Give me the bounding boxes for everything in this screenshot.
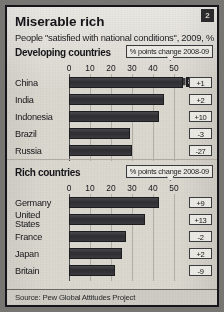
x-tick-label: 50 xyxy=(169,63,178,73)
bar-category-label: UnitedStates xyxy=(15,211,40,229)
x-tick-label: 20 xyxy=(106,183,115,193)
bar-category-label: France xyxy=(15,232,42,242)
x-tick-label: 10 xyxy=(85,183,94,193)
bar-category-label: China xyxy=(15,78,38,88)
bar xyxy=(69,111,159,122)
bar xyxy=(69,214,145,225)
panel-heading-developing: Developing countries xyxy=(15,47,111,58)
change-value-box: +2 xyxy=(189,248,212,259)
change-value-box: -27 xyxy=(189,145,212,156)
change-value-box: -2 xyxy=(189,231,212,242)
chart-card: 2 Miserable rich People "satisfied with … xyxy=(5,5,219,307)
x-axis-developing: 01020304050 xyxy=(7,63,217,74)
bar xyxy=(69,248,122,259)
x-tick-label: 0 xyxy=(67,183,72,193)
change-value-box: +1 xyxy=(189,77,212,88)
x-tick-label: 30 xyxy=(127,183,136,193)
source-bar: Source: Pew Global Attitudes Project xyxy=(7,289,217,305)
change-value-box: +13 xyxy=(189,214,212,225)
x-tick-label: 10 xyxy=(85,63,94,73)
bar xyxy=(69,197,159,208)
x-tick-label: 20 xyxy=(106,63,115,73)
gridline xyxy=(174,194,175,281)
bar-category-label: Brazil xyxy=(15,129,36,139)
change-value-box: -3 xyxy=(189,128,212,139)
bar xyxy=(69,94,164,105)
change-value-box: +2 xyxy=(189,94,212,105)
page-subtitle: People "satisfied with national conditio… xyxy=(15,32,214,43)
change-value-box: +9 xyxy=(189,197,212,208)
bar-category-label: Russia xyxy=(15,146,42,156)
x-tick-label: 0 xyxy=(67,63,72,73)
bar xyxy=(69,231,126,242)
bar xyxy=(69,128,130,139)
x-tick-label: 40 xyxy=(148,63,157,73)
chart-plot-rich: 01020304050 Germany+9UnitedStates+13Fran… xyxy=(7,183,217,288)
legend-developing: % points change 2008-09 xyxy=(126,45,213,58)
corner-badge: 2 xyxy=(201,9,214,22)
bar-category-label: Indonesia xyxy=(15,112,53,122)
source-text: Source: Pew Global Attitudes Project xyxy=(15,293,135,302)
bar xyxy=(69,265,115,276)
chart-plot-developing: 01020304050 China⫴87+1India+2Indonesia+1… xyxy=(7,63,217,151)
change-value-box: -9 xyxy=(189,265,212,276)
x-axis-rich: 01020304050 xyxy=(7,183,217,194)
page-title: Miserable rich xyxy=(15,14,104,29)
bar-category-label: Germany xyxy=(15,198,51,208)
bar-category-label: India xyxy=(15,95,34,105)
bar-category-label: Japan xyxy=(15,249,39,259)
change-value-box: +10 xyxy=(189,111,212,122)
legend-rich: % points change 2008-09 xyxy=(126,165,213,178)
panel-heading-rich: Rich countries xyxy=(15,167,80,178)
x-tick-label: 30 xyxy=(127,63,136,73)
scan-background: 2 Miserable rich People "satisfied with … xyxy=(0,0,224,312)
x-tick-label: 50 xyxy=(169,183,178,193)
x-tick-label: 40 xyxy=(148,183,157,193)
bar-category-label: Britain xyxy=(15,266,39,276)
bar xyxy=(69,145,132,156)
bar xyxy=(69,77,183,88)
section-divider xyxy=(7,159,217,160)
